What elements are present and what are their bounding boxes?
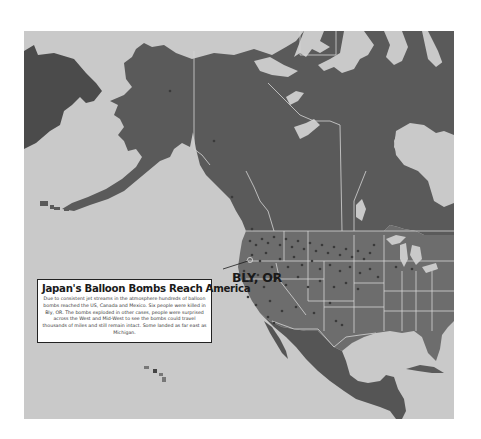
- cuba-island: [406, 365, 444, 373]
- aleutian-islands: [40, 201, 69, 211]
- north-america-map: [24, 31, 454, 419]
- info-box-title: Japan's Balloon Bombs Reach America: [42, 283, 207, 295]
- bly-or-label: BLY, OR: [232, 270, 282, 285]
- info-box: Japan's Balloon Bombs Reach America Due …: [37, 279, 212, 343]
- russia-landmass: [24, 45, 102, 149]
- info-box-body: Due to consistent jet streams in the atm…: [42, 296, 207, 337]
- hawaii-islands: [144, 366, 166, 382]
- usa-landmass: [238, 225, 454, 361]
- map-graphic: [24, 31, 454, 419]
